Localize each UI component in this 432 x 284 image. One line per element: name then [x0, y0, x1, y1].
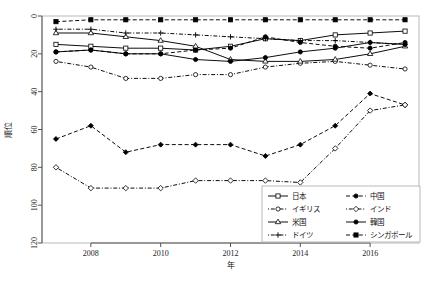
data-point-filled-diamond — [53, 136, 58, 141]
data-point-open-square — [403, 29, 407, 33]
data-point-filled-square — [54, 20, 58, 24]
y-tick-label: 80 — [30, 163, 39, 171]
y-tick-label: 20 — [30, 50, 39, 58]
data-point-open-diamond — [88, 185, 93, 190]
data-point-filled-diamond — [228, 142, 233, 147]
data-point-open-square — [124, 46, 128, 50]
data-point-open-circle — [368, 63, 372, 67]
data-point-open-circle — [124, 76, 128, 80]
data-point-filled-square — [263, 18, 267, 22]
data-point-open-circle — [263, 65, 267, 69]
data-point-open-diamond — [263, 178, 268, 183]
x-tick-label: 2016 — [362, 249, 378, 258]
data-point-open-square — [159, 46, 163, 50]
data-point-filled-circle — [354, 220, 358, 224]
data-point-filled-circle — [228, 46, 232, 50]
x-tick-label: 2012 — [223, 249, 239, 258]
data-point-filled-circle — [54, 50, 58, 54]
line-chart-canvas: 02040608010012020082010201220142016 日本中国… — [0, 0, 432, 284]
data-point-filled-square — [193, 18, 197, 22]
data-point-open-circle — [159, 76, 163, 80]
y-tick-label: 60 — [30, 126, 39, 134]
y-tick-label: 100 — [30, 199, 39, 211]
data-point-filled-circle — [228, 59, 232, 63]
data-point-filled-circle — [263, 56, 267, 60]
data-point-open-circle — [54, 59, 58, 63]
x-tick-label: 2008 — [83, 249, 99, 258]
legend: 日本中国イギリスインド米国韓国ドイツシンガポール — [262, 186, 420, 242]
data-point-filled-circle — [89, 48, 93, 52]
data-point-open-circle — [228, 73, 232, 77]
data-point-filled-square — [228, 18, 232, 22]
data-point-filled-circle — [368, 46, 372, 50]
series-lower-ドイツ — [53, 91, 407, 158]
legend-label: ドイツ — [292, 231, 313, 240]
data-point-filled-square — [333, 18, 337, 22]
x-axis-title: 年 — [227, 260, 235, 270]
data-point-filled-circle — [193, 57, 197, 61]
y-tick-label: 0 — [30, 14, 39, 18]
data-point-filled-diamond — [193, 142, 198, 147]
legend-label: インド — [370, 205, 391, 214]
data-point-filled-diamond — [368, 91, 373, 96]
data-point-filled-square — [124, 18, 128, 22]
data-point-filled-square — [298, 18, 302, 22]
data-point-filled-diamond — [158, 142, 163, 147]
data-point-filled-square — [368, 18, 372, 22]
x-tick-label: 2014 — [292, 249, 308, 258]
chart-figure: 02040608010012020082010201220142016 日本中国… — [0, 0, 432, 284]
data-point-open-diamond — [158, 185, 163, 190]
legend-label: 韓国 — [370, 217, 384, 227]
legend-label: 米国 — [292, 217, 306, 227]
legend-label: 日本 — [292, 191, 307, 201]
data-point-open-square — [368, 31, 372, 35]
data-point-open-diamond — [193, 178, 198, 183]
data-point-open-circle — [193, 73, 197, 77]
data-point-open-circle — [89, 65, 93, 69]
y-tick-label: 120 — [30, 237, 39, 249]
legend-label: 中国 — [370, 191, 384, 201]
data-point-open-diamond — [123, 185, 128, 190]
data-point-filled-circle — [193, 48, 197, 52]
data-point-filled-diamond — [298, 142, 303, 147]
data-point-filled-circle — [354, 194, 358, 198]
data-point-filled-circle — [298, 50, 302, 54]
data-point-filled-square — [159, 18, 163, 22]
data-series-group — [53, 18, 407, 191]
data-point-open-square — [276, 194, 280, 198]
data-point-open-circle — [403, 67, 407, 71]
data-point-filled-circle — [159, 52, 163, 56]
data-point-filled-circle — [333, 46, 337, 50]
data-point-open-square — [333, 33, 337, 37]
data-point-filled-diamond — [263, 153, 268, 158]
y-axis-title: 順位 — [3, 122, 13, 138]
data-point-filled-square — [354, 233, 358, 237]
legend-label: イギリス — [292, 205, 320, 214]
data-point-open-circle — [276, 207, 280, 211]
data-point-filled-circle — [124, 52, 128, 56]
series-シンガポール — [54, 18, 407, 24]
data-point-open-square — [54, 42, 58, 46]
data-point-open-diamond — [402, 102, 407, 107]
x-tick-label: 2010 — [153, 249, 169, 258]
y-tick-label: 40 — [30, 88, 39, 96]
data-point-filled-square — [403, 18, 407, 22]
data-point-open-triangle — [298, 59, 303, 64]
data-point-open-diamond — [228, 178, 233, 183]
legend-label: シンガポール — [370, 230, 413, 240]
data-point-open-diamond — [53, 165, 58, 170]
data-point-filled-square — [89, 18, 93, 22]
